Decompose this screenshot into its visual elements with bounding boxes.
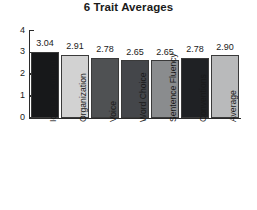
x-axis-category-label: Word Choice bbox=[139, 72, 148, 122]
bar-value-label: 3.04 bbox=[28, 39, 62, 48]
x-axis-category-label: Average bbox=[229, 90, 238, 122]
y-tick-label-3: 3 bbox=[9, 47, 25, 56]
x-axis-category-label: Ideas & Content bbox=[49, 60, 58, 122]
y-tick-label-0: 0 bbox=[9, 113, 25, 122]
x-axis-category-label: Organization bbox=[79, 73, 88, 122]
bar-series: 3.04Ideas & Content2.91Organization2.78V… bbox=[31, 0, 241, 210]
y-tick-label-2: 2 bbox=[9, 69, 25, 78]
bar-value-label: 2.90 bbox=[208, 43, 242, 52]
x-axis-category-label: Voice bbox=[109, 101, 118, 122]
bar-value-label: 2.91 bbox=[58, 42, 92, 51]
y-tick-label-1: 1 bbox=[9, 91, 25, 100]
bar-chart: 6 Trait Averages 01234 3.04Ideas & Conte… bbox=[0, 0, 257, 210]
plot-area: 01234 3.04Ideas & Content2.91Organizatio… bbox=[0, 0, 257, 210]
x-axis-category-label: Sentence Fluency bbox=[169, 53, 178, 122]
bar-value-label: 2.78 bbox=[178, 45, 212, 54]
x-axis-category-label: Conventions bbox=[199, 74, 208, 122]
bar-value-label: 2.65 bbox=[118, 48, 152, 57]
y-tick-label-4: 4 bbox=[9, 26, 25, 35]
bar-value-label: 2.78 bbox=[88, 45, 122, 54]
